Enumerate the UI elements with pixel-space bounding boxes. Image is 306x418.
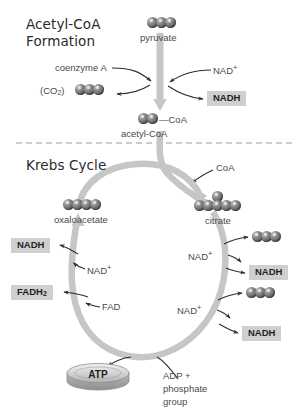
adp-phosphate-label: ADP + phosphate group	[163, 369, 207, 408]
nadh-box-top: NADH	[207, 91, 246, 106]
pyruvate-carbon-spheres	[147, 17, 181, 30]
krebs-cycle-heading: Krebs Cycle	[26, 157, 106, 174]
oxaloacetate-carbon-spheres	[63, 199, 107, 212]
coa-released-label: CoA	[216, 163, 234, 173]
acetyl-coa-formation-heading: Acetyl-CoA Formation	[26, 16, 101, 50]
atp-label: ATP	[67, 363, 129, 385]
acetyl-coa-bond-and-tag: —CoA	[159, 115, 187, 125]
co2-close: )	[61, 85, 64, 96]
nad-superscript-right-upper: +	[208, 249, 212, 258]
adp-line-1: ADP +	[163, 369, 207, 382]
fadh2-subscript: 2	[43, 290, 47, 297]
left-cycle-reaction-arrows	[60, 245, 100, 307]
heading-line-1: Acetyl-CoA	[26, 16, 101, 33]
nad-superscript-right-lower: +	[197, 303, 201, 312]
pyruvate-to-acetylcoa-arrow	[153, 33, 167, 111]
nadh-box-right-lower: NADH	[242, 326, 281, 341]
nad-superscript: +	[233, 63, 237, 72]
adp-line-2: phosphate	[163, 382, 207, 395]
heading-line-2: Formation	[26, 33, 101, 50]
nadh-box-right-upper: NADH	[249, 265, 288, 280]
fadh2-box-left: FADH2	[11, 285, 53, 300]
nad-plus-label-right-upper: NAD+	[188, 250, 212, 262]
citrate-label: citrate	[205, 216, 231, 226]
fadh2-text: FADH	[17, 286, 43, 297]
nad-text-right-lower: NAD	[177, 305, 197, 316]
nad-superscript-left: +	[107, 263, 111, 272]
co2-label-top: (CO2)	[40, 86, 65, 96]
acetyl-coa-coa-tag: CoA	[169, 114, 187, 125]
nadh-box-left: NADH	[11, 238, 50, 253]
adp-line-3: group	[163, 395, 207, 408]
nad-plus-label-top: NAD+	[213, 64, 237, 76]
nad-text: NAD	[213, 65, 233, 76]
nad-plus-label-left: NAD+	[87, 264, 111, 276]
nad-text-right-upper: NAD	[188, 251, 208, 262]
acetyl-coa-label: acetyl-CoA	[121, 129, 167, 139]
co2-open: (CO	[40, 85, 57, 96]
co2-carbon-spheres-right-upper	[252, 231, 286, 244]
acetyl-coa-bond: —	[159, 114, 169, 125]
coenzyme-a-label: coenzyme A	[55, 63, 107, 73]
coa-release-arrow	[192, 170, 213, 183]
pathway-diagram-canvas	[0, 0, 306, 418]
fad-label-left: FAD	[102, 302, 120, 312]
nad-text-left: NAD	[87, 265, 107, 276]
co2-carbon-spheres-top	[75, 84, 109, 97]
pyruvate-label: pyruvate	[140, 33, 176, 43]
oxaloacetate-label: oxaloacetate	[54, 215, 108, 225]
co2-carbon-spheres-right-lower	[246, 287, 280, 300]
citrate-carbon-spheres	[194, 191, 252, 215]
nad-plus-label-right-lower: NAD+	[177, 304, 201, 316]
